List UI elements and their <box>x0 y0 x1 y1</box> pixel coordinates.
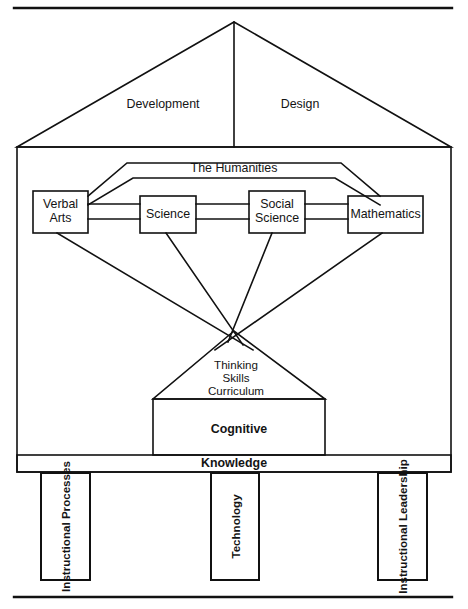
diagram-canvas: Development Design The Humanities Verbal… <box>0 0 468 609</box>
pillar-text-technology: Technology <box>229 494 242 558</box>
humanities-arch-inner <box>88 178 380 205</box>
box-science <box>140 196 196 233</box>
diagonal-math-to-apex <box>215 233 382 350</box>
box-cognitive <box>153 399 325 455</box>
band-knowledge <box>17 455 451 472</box>
box-social-science <box>249 191 305 233</box>
pillar-label-technology: Technology <box>211 473 259 580</box>
box-verbal-arts <box>33 191 88 233</box>
diagonal-science-to-apex <box>166 233 243 345</box>
box-mathematics <box>348 196 423 233</box>
pillar-label-instructional-leadership: Instructional Leadership <box>378 473 427 580</box>
diagonal-verbal-to-apex <box>57 233 253 350</box>
pillar-text-instructional-processes: Instructional Processes <box>59 461 72 592</box>
pillar-label-instructional-processes: Instructional Processes <box>41 473 90 580</box>
pillar-text-instructional-leadership: Instructional Leadership <box>396 459 409 594</box>
